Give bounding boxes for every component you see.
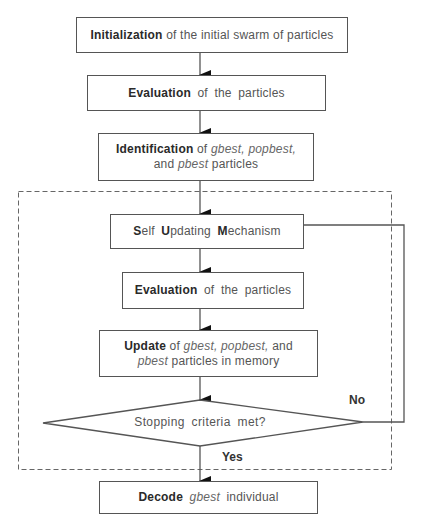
evaluation-box-2: Evaluation of the particles — [122, 272, 304, 309]
decision-text: Stopping criteria met? — [120, 415, 280, 429]
init-swarm-box: Initialization of the initial swarm of p… — [76, 17, 348, 53]
init-rest: of the initial swarm of particles — [163, 28, 334, 42]
eval1-rest: of the particles — [191, 86, 285, 100]
self-u: U — [161, 224, 170, 238]
ident-popbest: popbest, — [248, 142, 296, 156]
ident-and: and — [154, 157, 178, 171]
identification-box: Identification of gbest, popbest, and pb… — [98, 133, 314, 181]
update-memory-box: Update of gbest, popbest, and pbest part… — [99, 330, 318, 377]
eval2-bold: Evaluation — [135, 283, 198, 297]
update-rest: particles in memory — [168, 354, 279, 368]
decode-rest: individual — [220, 490, 279, 504]
self-updating-mechanism-box: Self Updating Mechanism — [110, 214, 304, 249]
evaluation-box-1: Evaluation of the particles — [87, 75, 326, 111]
self-echanism: echanism — [228, 224, 281, 238]
self-elf: elf — [142, 224, 162, 238]
update-bold: Update — [124, 339, 166, 353]
eval2-rest: of the particles — [197, 283, 291, 297]
ident-bold: Identification — [116, 142, 193, 156]
self-pdating: pdating — [170, 224, 217, 238]
self-m: M — [218, 224, 228, 238]
init-bold: Initialization — [90, 28, 162, 42]
decode-gbest: gbest — [190, 490, 220, 504]
ident-gbest: gbest, — [211, 142, 245, 156]
update-popbest: popbest, — [221, 339, 269, 353]
update-and: and — [269, 339, 293, 353]
decode-bold: Decode — [138, 490, 183, 504]
yes-label: Yes — [222, 450, 243, 464]
ident-pbest: pbest — [178, 157, 208, 171]
no-label: No — [349, 393, 365, 407]
self-s: S — [133, 224, 141, 238]
decode-gbest-box: Decode gbest individual — [99, 481, 318, 514]
eval1-bold: Evaluation — [128, 86, 191, 100]
update-of: of — [166, 339, 183, 353]
update-pbest: pbest — [138, 354, 168, 368]
update-gbest: gbest, — [184, 339, 218, 353]
ident-particles: particles — [208, 157, 258, 171]
ident-of: of — [193, 142, 210, 156]
